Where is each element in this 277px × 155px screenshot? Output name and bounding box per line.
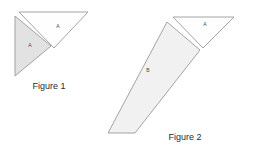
figures-canvas: A A Figure 1 B A Figure 2 (0, 0, 277, 155)
figure2-caption: Figure 2 (168, 132, 201, 142)
geometry-figures-svg: A A Figure 1 B A Figure 2 (0, 0, 277, 155)
figure1-caption: Figure 1 (32, 81, 65, 91)
